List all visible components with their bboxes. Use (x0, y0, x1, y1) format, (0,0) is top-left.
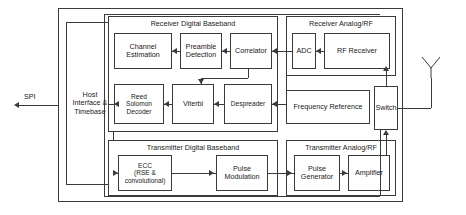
block-despreader: Despreader (224, 84, 272, 124)
block-adc: ADC (292, 33, 316, 69)
block-amplifier: Amplifier (348, 155, 390, 191)
ecc-line-1: ECC (138, 162, 152, 169)
pulse-mod-line-2: Modulation (224, 173, 259, 181)
spi-label: SPI (24, 92, 36, 101)
line-antenna-mast (431, 78, 432, 108)
antenna-icon (419, 56, 445, 80)
arrow-switch-to-rf-receiver-icon (383, 66, 389, 71)
arrow-into-despreader-right-icon (272, 101, 277, 107)
block-pulse-generator: Pulse Generator (294, 155, 340, 191)
block-ecc: ECC (RSE & convolutional) (118, 155, 172, 191)
block-rf-receiver: RF Receiver (324, 33, 390, 69)
line-correlator-to-despreader-h (201, 78, 248, 79)
arrow-host-to-ecc-icon (113, 170, 118, 176)
line-host-top-trunk-v (104, 14, 105, 105)
switch-label: Switch (375, 104, 396, 112)
group-transmitter-analog-rf-title: Transmitter Analog/RF (287, 143, 395, 152)
block-diagram-canvas: SPI Host Interface & Timebase Receiver D… (0, 0, 466, 215)
block-host-interface-timebase: Host Interface & Timebase (66, 22, 114, 185)
amplifier-label: Amplifier (355, 169, 383, 177)
viterbi-label: Viterbi (183, 100, 203, 108)
arrow-adc-to-correlator-icon (272, 48, 277, 54)
block-channel-estimation: Channel Estimation (114, 33, 172, 69)
line-host-bottom-trunk-h (104, 196, 380, 197)
group-receiver-digital-baseband-title: Receiver Digital Baseband (109, 19, 277, 28)
frequency-reference-label: Frequency Reference (293, 103, 362, 111)
line-switch-to-rf-receiver (386, 69, 387, 86)
arrow-rfrx-to-adc-icon (316, 48, 321, 54)
block-frequency-reference: Frequency Reference (286, 90, 370, 124)
pulse-gen-line-2: Generator (301, 173, 333, 181)
ecc-line-3: convolutional) (125, 177, 166, 184)
despreader-label: Despreader (231, 100, 265, 107)
block-correlator: Correlator (230, 33, 272, 69)
block-pulse-modulation: Pulse Modulation (216, 155, 268, 191)
rf-receiver-label: RF Receiver (337, 47, 377, 55)
block-preamble-detection: Preamble Detection (180, 33, 222, 69)
group-receiver-analog-rf-title: Receiver Analog/RF (287, 19, 395, 28)
preamble-line-2: Detection (186, 51, 216, 59)
line-amplifier-to-switch (386, 134, 387, 155)
block-viterbi: Viterbi (172, 84, 214, 124)
reed-line-1: Reed (131, 93, 147, 100)
arrow-correlator-to-preamble-icon (222, 48, 227, 54)
arrow-into-despreader-icon (198, 79, 204, 84)
channel-est-line-2: Estimation (126, 51, 160, 59)
line-bottom-trunk-riser (380, 130, 381, 196)
arrow-reed-to-host-icon (114, 101, 119, 107)
block-switch: Switch (374, 86, 398, 130)
line-switch-to-antenna (398, 108, 431, 109)
host-line-3: Timebase (74, 108, 105, 116)
line-host-top-trunk-h (104, 14, 380, 15)
line-adc-branch-down (286, 51, 287, 104)
line-host-bottom-trunk-v (104, 104, 105, 196)
reed-line-3: Decoder (127, 108, 152, 115)
spi-arrow-left-icon (14, 102, 19, 108)
reed-line-2: Solomon (126, 100, 152, 107)
arrow-ecc-to-pulse-mod-icon (209, 170, 214, 176)
block-reed-solomon-decoder: Reed Solomon Decoder (114, 84, 164, 124)
arrow-pulse-mod-to-pulse-gen-icon (287, 170, 292, 176)
arrow-viterbi-to-reed-icon (164, 101, 169, 107)
ecc-line-2: (RSE & (134, 169, 156, 176)
group-transmitter-digital-baseband-title: Transmitter Digital Baseband (109, 143, 277, 152)
adc-label: ADC (296, 47, 311, 55)
arrow-despreader-to-viterbi-icon (214, 101, 219, 107)
correlator-label: Correlator (235, 47, 267, 55)
line-correlator-drop (248, 69, 249, 78)
arrow-pulse-gen-to-amplifier-icon (342, 170, 347, 176)
arrow-preamble-to-channel-est-icon (172, 48, 177, 54)
arrow-amplifier-to-switch-icon (383, 130, 389, 135)
spi-line (18, 105, 58, 106)
